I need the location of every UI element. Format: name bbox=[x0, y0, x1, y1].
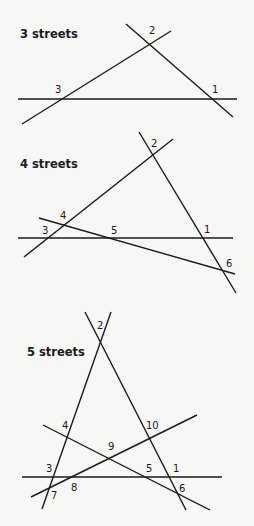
intersection-label: 4 bbox=[60, 210, 66, 221]
intersection-label: 5 bbox=[146, 463, 152, 474]
intersection-label: 1 bbox=[173, 463, 179, 474]
intersection-label: 3 bbox=[46, 463, 52, 474]
intersection-label: 1 bbox=[212, 84, 218, 95]
intersection-label: 7 bbox=[51, 490, 57, 501]
intersection-label: 3 bbox=[42, 225, 48, 236]
intersection-label: 2 bbox=[97, 320, 103, 331]
street-intersections-diagram: 3 streets2314 streets2435165 streets2410… bbox=[0, 0, 254, 526]
intersection-label: 3 bbox=[55, 84, 61, 95]
intersection-label: 10 bbox=[146, 420, 159, 431]
intersection-label: 5 bbox=[111, 225, 117, 236]
intersection-label: 6 bbox=[226, 258, 232, 269]
panel-3-streets: 3 streets231 bbox=[18, 24, 237, 124]
intersection-label: 2 bbox=[151, 138, 157, 149]
intersection-label: 2 bbox=[149, 25, 155, 36]
intersection-label: 6 bbox=[179, 483, 185, 494]
intersection-label: 4 bbox=[62, 420, 68, 431]
panel-title: 3 streets bbox=[20, 27, 78, 41]
street-line bbox=[43, 425, 210, 510]
street-line bbox=[139, 132, 236, 293]
intersection-label: 8 bbox=[71, 482, 77, 493]
street-line bbox=[31, 415, 197, 497]
panel-title: 5 streets bbox=[27, 345, 85, 359]
intersection-label: 9 bbox=[108, 441, 114, 452]
panel-4-streets: 4 streets243516 bbox=[18, 132, 236, 293]
street-line bbox=[126, 24, 233, 117]
street-line bbox=[85, 312, 186, 510]
panel-title: 4 streets bbox=[20, 157, 78, 171]
street-line bbox=[22, 31, 171, 124]
intersection-label: 1 bbox=[204, 224, 210, 235]
panel-5-streets: 5 streets24109385176 bbox=[22, 312, 222, 510]
